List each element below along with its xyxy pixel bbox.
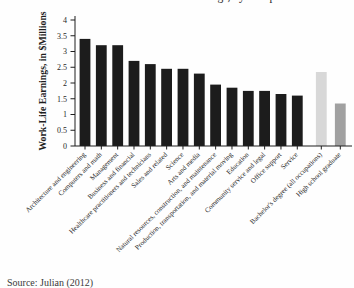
y-tick-label: 2 bbox=[63, 79, 67, 88]
bar-natural-resources-construction-and-maintenance bbox=[210, 85, 221, 146]
bar-education bbox=[243, 91, 254, 146]
bar-production-transportation-and-material-moving bbox=[227, 88, 238, 146]
bar-office-support bbox=[276, 94, 287, 146]
bar-computers-and-math bbox=[96, 45, 107, 146]
y-tick-label: 1.5 bbox=[57, 95, 67, 104]
bar-sales-and-related bbox=[161, 69, 172, 146]
bar-architecture-and-engineering bbox=[80, 39, 91, 146]
bar-arts-and-media bbox=[194, 74, 205, 146]
y-axis-title: Work-Life Earnings, in $Millions bbox=[37, 11, 48, 151]
bar-community-service-and-legal bbox=[259, 91, 270, 146]
y-tick-label: 3 bbox=[63, 47, 67, 56]
x-tick-label-architecture-and-engineering: Architecture and engineering bbox=[24, 150, 88, 214]
y-tick-label: 4 bbox=[63, 16, 67, 25]
x-tick-label-service: Service bbox=[279, 151, 300, 172]
y-tick-label: 1 bbox=[63, 110, 67, 119]
bar-bachelor-s-degree-all-occupations bbox=[316, 72, 327, 146]
bar-service bbox=[292, 96, 303, 146]
source-note: Source: Julian (2012) bbox=[7, 277, 93, 288]
bar-management bbox=[112, 45, 123, 146]
y-tick-label: 0 bbox=[63, 142, 67, 151]
bar-healthcare-practitioners-and-technicians bbox=[145, 64, 156, 146]
bar-science bbox=[178, 69, 189, 146]
bar-business-and-financial bbox=[129, 61, 140, 146]
y-tick-label: 2.5 bbox=[57, 63, 67, 72]
y-tick-label: 3.5 bbox=[57, 32, 67, 41]
y-tick-label: 0.5 bbox=[57, 126, 67, 135]
bar-high-school-graduate bbox=[335, 104, 346, 147]
